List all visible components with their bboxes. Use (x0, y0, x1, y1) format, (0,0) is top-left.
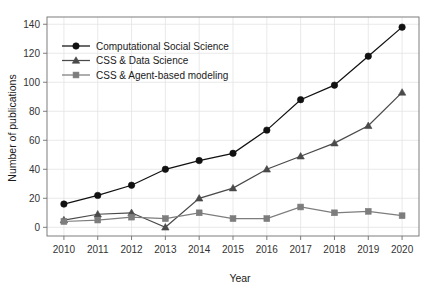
data-point (297, 96, 303, 102)
data-point (399, 213, 405, 219)
data-point (162, 216, 168, 222)
y-tick-label: 120 (23, 48, 40, 59)
publications-trend-figure: 020406080100120140 201020112012201320142… (0, 0, 430, 288)
data-point (230, 216, 236, 222)
legend-label-3: CSS & Agent-based modeling (96, 70, 228, 81)
y-tick-label: 20 (29, 193, 41, 204)
line-chart: 020406080100120140 201020112012201320142… (0, 0, 430, 288)
x-tick-label: 2018 (323, 244, 346, 255)
y-tick-label: 100 (23, 77, 40, 88)
y-tick-label: 40 (29, 164, 41, 175)
x-tick-label: 2015 (222, 244, 245, 255)
data-point (298, 204, 304, 210)
data-point (365, 53, 371, 59)
x-tick-label: 2014 (188, 244, 211, 255)
data-point (332, 210, 338, 216)
data-point (162, 166, 168, 172)
data-point (331, 82, 337, 88)
data-point (230, 150, 236, 156)
x-tick-label: 2020 (391, 244, 414, 255)
data-point (264, 127, 270, 133)
x-tick-label: 2013 (154, 244, 177, 255)
x-tick-label: 2012 (120, 244, 143, 255)
data-point (264, 216, 270, 222)
y-tick-label: 80 (29, 106, 41, 117)
legend-label-2: CSS & Data Science (96, 55, 189, 66)
x-tick-label: 2011 (87, 244, 109, 255)
data-point (61, 201, 67, 207)
data-point (365, 208, 371, 214)
square-marker-icon (73, 72, 79, 78)
y-tick-label: 0 (34, 222, 40, 233)
x-tick-label: 2019 (357, 244, 380, 255)
x-tick-label: 2017 (290, 244, 313, 255)
data-point (196, 210, 202, 216)
data-point (128, 182, 134, 188)
y-axis-title: Number of publications (6, 74, 18, 181)
x-tick-label: 2016 (256, 244, 279, 255)
circle-marker-icon (73, 43, 79, 49)
legend-label-1: Computational Social Science (96, 41, 229, 52)
data-point (196, 157, 202, 163)
data-point (95, 217, 101, 223)
y-tick-label: 60 (29, 135, 41, 146)
data-point (95, 192, 101, 198)
data-point (61, 219, 67, 225)
data-point (129, 214, 135, 220)
data-point (399, 24, 405, 30)
x-axis-title: Year (229, 272, 251, 284)
y-tick-label: 140 (23, 19, 40, 30)
x-tick-label: 2010 (53, 244, 76, 255)
